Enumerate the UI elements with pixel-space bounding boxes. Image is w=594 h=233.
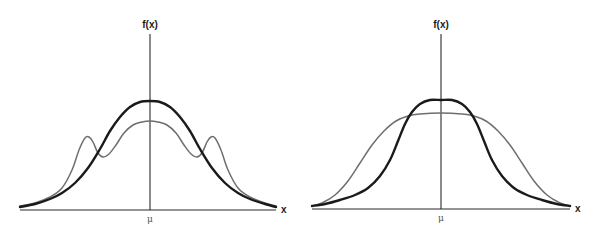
left-mu-tick-label: μ <box>147 214 153 224</box>
left-panel <box>20 34 276 210</box>
figure <box>0 0 594 233</box>
right-x-axis-label: x <box>575 203 581 214</box>
right-mu-tick-label: μ <box>438 213 444 223</box>
left-y-axis-label: f(x) <box>142 19 158 30</box>
left-x-axis-label: x <box>281 204 287 215</box>
right-panel <box>312 34 570 209</box>
right-y-axis-label: f(x) <box>433 19 449 30</box>
